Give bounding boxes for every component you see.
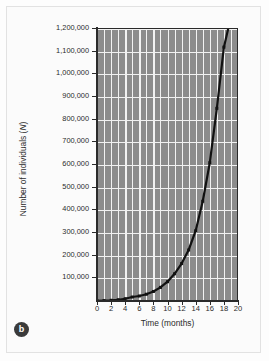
- y-axis-title-text: Number of individuals (: [18, 131, 28, 217]
- y-tick-label: 1,000,000: [5, 69, 89, 76]
- data-point-marker: [152, 290, 155, 293]
- x-axis-tick: [238, 301, 239, 305]
- y-axis-tick: [92, 187, 97, 188]
- data-curve: [97, 29, 238, 300]
- data-point-marker: [138, 295, 141, 298]
- y-axis-tick: [92, 255, 97, 256]
- plot-area: [97, 28, 238, 300]
- y-axis-title: Number of individuals (N): [18, 84, 28, 254]
- data-point-marker: [159, 286, 162, 289]
- data-point-marker: [222, 46, 225, 49]
- x-axis-tick: [125, 301, 126, 305]
- y-axis-tick: [92, 232, 97, 233]
- data-point-marker: [201, 200, 204, 203]
- y-tick-label: 1,200,000: [5, 24, 89, 31]
- y-axis-title-suffix: ): [18, 122, 28, 125]
- x-axis-tick: [97, 301, 98, 305]
- data-point-marker: [194, 229, 197, 232]
- data-point-marker: [180, 262, 183, 265]
- x-axis-tick: [168, 301, 169, 305]
- y-axis-tick: [92, 164, 97, 165]
- data-point-marker: [208, 161, 211, 164]
- x-axis-tick: [224, 301, 225, 305]
- x-axis-tick: [153, 301, 154, 305]
- y-axis-tick: [92, 28, 97, 29]
- y-axis-tick: [92, 141, 97, 142]
- y-axis-tick: [92, 73, 97, 74]
- x-axis-title: Time (months): [97, 318, 238, 328]
- y-axis-tick: [92, 209, 97, 210]
- y-tick-label: 1,100,000: [5, 47, 89, 54]
- y-axis-tick: [92, 277, 97, 278]
- y-axis-title-symbol: N: [18, 125, 28, 131]
- plot-wrapper: 100,000200,000300,000400,000500,000600,0…: [0, 0, 269, 361]
- x-axis-tick: [210, 301, 211, 305]
- data-point-marker: [173, 272, 176, 275]
- x-axis-tick: [182, 301, 183, 305]
- y-axis-tick: [92, 119, 97, 120]
- data-point-marker: [166, 280, 169, 283]
- x-axis-tick: [196, 301, 197, 305]
- x-axis-tick: [111, 301, 112, 305]
- data-point-marker: [145, 293, 148, 296]
- y-axis-tick: [92, 96, 97, 97]
- data-point-marker: [215, 107, 218, 110]
- data-point-marker: [131, 296, 134, 299]
- figure-panel: 100,000200,000300,000400,000500,000600,0…: [0, 0, 269, 361]
- data-point-marker: [187, 249, 190, 252]
- panel-label-badge: b: [14, 322, 29, 337]
- y-tick-label: 100,000: [5, 273, 89, 280]
- y-axis-tick: [92, 51, 97, 52]
- series-line: [97, 29, 228, 300]
- x-axis-tick: [139, 301, 140, 305]
- x-tick-label: 20: [226, 305, 250, 313]
